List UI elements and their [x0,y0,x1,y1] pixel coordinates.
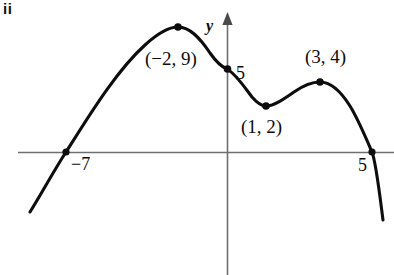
marker-local-minimum [262,102,270,110]
marker-second-local-maximum [316,78,324,86]
label-left-x-intercept: −7 [71,154,90,174]
y-axis-label: y [204,17,214,35]
graph-figure: −7 (−2, 9) 5 (1, 2) (3, 4) 5 y [0,0,394,275]
y-axis-arrow-icon [222,12,232,25]
marker-y-intercept [224,65,232,73]
marker-left-x-intercept [62,148,69,155]
marker-local-maximum [174,23,182,31]
label-second-local-maximum: (3, 4) [305,46,346,68]
label-y-intercept: 5 [236,63,245,83]
marker-right-x-intercept [368,148,375,155]
label-right-x-intercept: 5 [358,155,367,175]
label-local-maximum: (−2, 9) [145,48,197,70]
label-local-minimum: (1, 2) [241,116,282,138]
